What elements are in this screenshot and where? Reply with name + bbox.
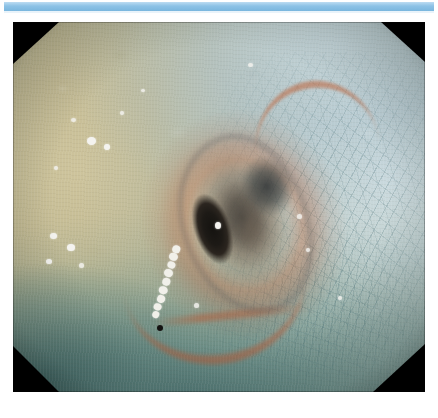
endoscopy-figure[interactable] — [13, 22, 425, 392]
frame-corner-bottom-left — [13, 346, 59, 392]
frame-corner-top-right — [381, 22, 425, 62]
frame-corner-bottom-right — [373, 344, 425, 392]
top-accent-bar — [4, 2, 434, 11]
endoscopy-image — [13, 22, 425, 392]
image-vignette — [13, 22, 425, 392]
frame-corner-top-left — [13, 22, 59, 64]
page-root — [0, 0, 438, 418]
top-accent-bar-shadow — [4, 11, 434, 13]
